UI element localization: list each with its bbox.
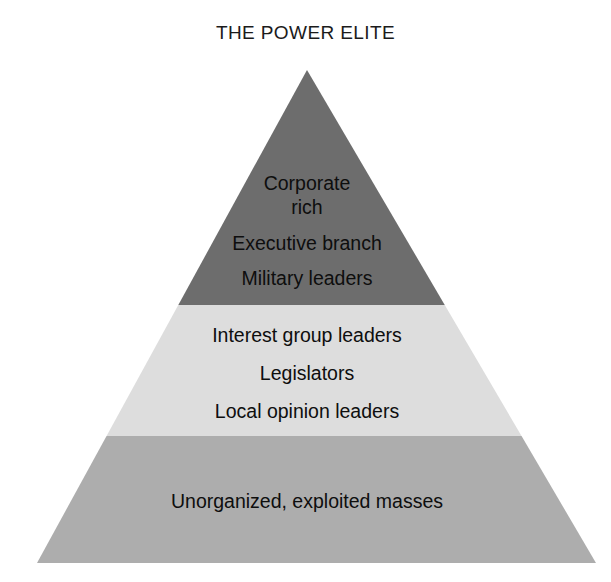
tier-top-line-1: Corporate bbox=[264, 172, 351, 194]
tier-top-line-3: Executive branch bbox=[232, 232, 382, 254]
tier-bottom-line-1: Unorganized, exploited masses bbox=[171, 490, 443, 512]
power-elite-pyramid-diagram: THE POWER ELITE Corporate rich Executive… bbox=[0, 0, 611, 582]
tier-middle-line-3: Local opinion leaders bbox=[215, 400, 400, 422]
tier-top-line-2: rich bbox=[291, 196, 322, 218]
tier-middle-line-2: Legislators bbox=[260, 362, 355, 384]
pyramid-graphic: Corporate rich Executive branch Military… bbox=[0, 0, 611, 582]
tier-middle-line-1: Interest group leaders bbox=[212, 324, 402, 346]
tier-top-line-4: Military leaders bbox=[241, 267, 372, 289]
